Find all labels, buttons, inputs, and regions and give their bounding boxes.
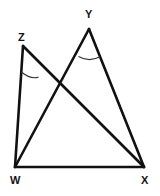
angle-arc-Z bbox=[21, 72, 38, 78]
segment-ZW bbox=[15, 46, 23, 167]
angle-arc-Y bbox=[79, 57, 101, 60]
geometry-figure: Z Y W X bbox=[0, 0, 160, 196]
vertex-label-Z: Z bbox=[18, 32, 25, 43]
vertex-label-Y: Y bbox=[85, 9, 92, 20]
segment-YX bbox=[89, 29, 144, 167]
vertex-label-X: X bbox=[141, 175, 148, 186]
vertex-label-W: W bbox=[10, 175, 20, 186]
figure-canvas bbox=[0, 0, 160, 196]
segment-ZX bbox=[23, 46, 144, 167]
